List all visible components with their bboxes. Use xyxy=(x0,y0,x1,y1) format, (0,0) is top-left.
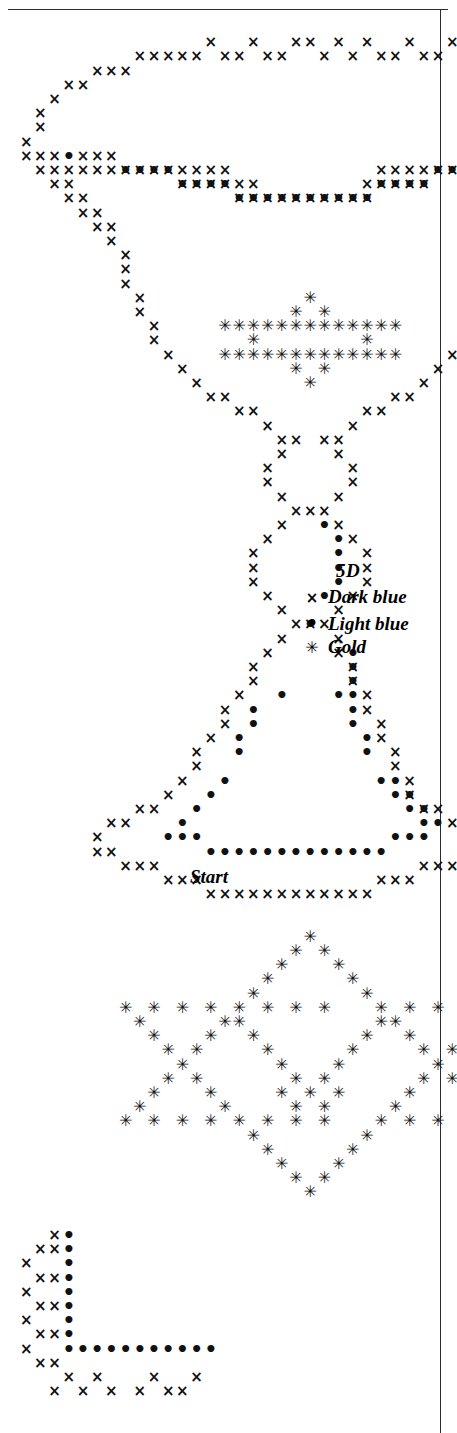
cross-x-stitch: × xyxy=(189,1369,205,1385)
star-stitch: ✳ xyxy=(345,1142,361,1158)
cross-x-stitch: × xyxy=(416,858,432,874)
cross-x-stitch: × xyxy=(245,673,261,689)
dot-stitch: • xyxy=(359,744,375,760)
legend-label-gold: Gold xyxy=(324,636,366,658)
star-stitch: ✳ xyxy=(189,1042,205,1058)
legend-row-gold: ✳ Gold xyxy=(300,636,440,660)
dot-symbol-icon: • xyxy=(300,611,324,635)
cross-x-stitch: × xyxy=(345,48,361,64)
star-stitch: ✳ xyxy=(316,361,332,377)
cross-x-stitch: × xyxy=(430,48,446,64)
star-stitch: ✳ xyxy=(331,1085,347,1101)
cross-x-stitch: × xyxy=(288,432,304,448)
star-stitch: ✳ xyxy=(316,1170,332,1186)
legend-title: 5D xyxy=(336,560,440,582)
cross-x-stitch: × xyxy=(75,1383,91,1399)
star-stitch: ✳ xyxy=(146,1000,162,1016)
star-stitch: ✳ xyxy=(402,1085,418,1101)
cross-x-stitch: × xyxy=(402,872,418,888)
star-stitch: ✳ xyxy=(359,1128,375,1144)
star-stitch: ✳ xyxy=(146,1085,162,1101)
star-stitch: ✳ xyxy=(402,1000,418,1016)
star-stitch: ✳ xyxy=(203,1113,219,1129)
dot-stitch: • xyxy=(217,773,233,789)
star-stitch: ✳ xyxy=(302,1184,318,1200)
star-stitch: ✳ xyxy=(302,375,318,391)
dot-stitch: • xyxy=(189,801,205,817)
star-stitch: ✳ xyxy=(288,1000,304,1016)
star-stitch: ✳ xyxy=(444,1042,457,1058)
cross-x-stitch: × xyxy=(387,872,403,888)
cross-x-stitch: × xyxy=(444,815,457,831)
star-stitch: ✳ xyxy=(174,1113,190,1129)
cross-x-stitch: × xyxy=(103,815,119,831)
dot-stitch: • xyxy=(203,787,219,803)
legend-row-dark-blue: × Dark blue xyxy=(300,586,440,610)
cross-x-stitch: × xyxy=(387,48,403,64)
cross-x-stitch: × xyxy=(402,389,418,405)
dot-stitch: • xyxy=(231,744,247,760)
dot-stitch: • xyxy=(245,716,261,732)
star-stitch: ✳ xyxy=(416,1071,432,1087)
cross-x-stitch: × xyxy=(174,1383,190,1399)
cross-x-stitch: × xyxy=(373,872,389,888)
cross-x-stitch: × xyxy=(75,77,91,93)
cross-x-symbol-icon: × xyxy=(300,589,324,607)
star-stitch: ✳ xyxy=(331,1156,347,1172)
star-stitch: ✳ xyxy=(146,1113,162,1129)
cross-x-stitch: × xyxy=(132,801,148,817)
star-stitch: ✳ xyxy=(430,1113,446,1129)
star-stitch: ✳ xyxy=(387,347,403,363)
cross-x-stitch: × xyxy=(359,403,375,419)
stitch-chart: ××××××××××××××××××××××××××××××××××××××××… xyxy=(0,0,457,1433)
cross-x-stitch: × xyxy=(444,858,457,874)
cross-x-stitch: × xyxy=(260,531,276,547)
legend-row-light-blue: • Light blue xyxy=(300,611,440,635)
cross-x-stitch: × xyxy=(430,858,446,874)
star-stitch: ✳ xyxy=(444,1071,457,1087)
start-annotation: Start xyxy=(190,866,228,888)
dot-stitch: • xyxy=(274,687,290,703)
dot-stitch: • xyxy=(373,844,389,860)
cross-x-stitch: × xyxy=(274,517,290,533)
star-stitch: ✳ xyxy=(174,1000,190,1016)
six-point-star-symbol-icon: ✳ xyxy=(300,638,324,657)
star-stitch: ✳ xyxy=(118,1113,134,1129)
cross-x-stitch: × xyxy=(444,34,457,50)
dot-stitch: • xyxy=(444,162,457,178)
star-stitch: ✳ xyxy=(387,318,403,334)
cross-x-stitch: × xyxy=(260,645,276,661)
cross-x-stitch: × xyxy=(32,119,48,135)
dot-stitch: • xyxy=(203,1341,219,1357)
pattern-page: ××××××××××××××××××××××××××××××××××××××××… xyxy=(0,0,457,1433)
star-stitch: ✳ xyxy=(260,971,276,987)
cross-x-stitch: × xyxy=(345,474,361,490)
cross-x-stitch: × xyxy=(189,48,205,64)
star-stitch: ✳ xyxy=(274,1085,290,1101)
cross-x-stitch: × xyxy=(274,631,290,647)
cross-x-stitch: × xyxy=(103,1383,119,1399)
legend-label-dark-blue: Dark blue xyxy=(324,586,407,608)
cross-x-stitch: × xyxy=(274,48,290,64)
dot-stitch: • xyxy=(430,815,446,831)
star-stitch: ✳ xyxy=(260,1000,276,1016)
cross-x-stitch: × xyxy=(359,886,375,902)
cross-x-stitch: × xyxy=(146,801,162,817)
dot-stitch: • xyxy=(61,148,77,164)
cross-x-stitch: × xyxy=(160,787,176,803)
cross-x-stitch: × xyxy=(118,63,134,79)
dot-stitch: • xyxy=(416,829,432,845)
star-stitch: ✳ xyxy=(316,1000,332,1016)
cross-x-stitch: × xyxy=(47,91,63,107)
star-stitch: ✳ xyxy=(288,1099,304,1115)
star-stitch: ✳ xyxy=(288,943,304,959)
legend: 5D × Dark blue • Light blue ✳ Gold xyxy=(300,560,440,661)
star-stitch: ✳ xyxy=(345,1042,361,1058)
star-stitch: ✳ xyxy=(274,957,290,973)
cross-x-stitch: × xyxy=(444,347,457,363)
cross-x-stitch: × xyxy=(373,403,389,419)
dot-stitch: • xyxy=(416,176,432,192)
star-stitch: ✳ xyxy=(160,1071,176,1087)
star-stitch: ✳ xyxy=(373,1113,389,1129)
cross-x-stitch: × xyxy=(189,758,205,774)
